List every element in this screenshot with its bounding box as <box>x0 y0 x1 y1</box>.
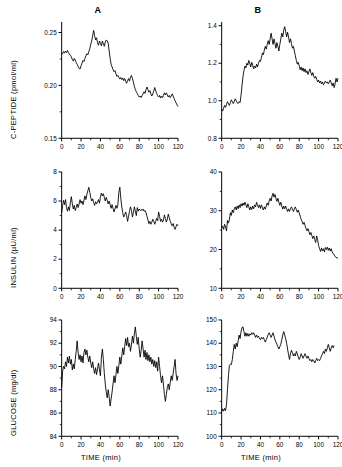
plot-panel-b-glucose: 100110120130140150020406080100120 <box>194 316 342 456</box>
svg-text:40: 40 <box>97 143 105 150</box>
svg-text:140: 140 <box>206 339 217 346</box>
svg-text:130: 130 <box>206 363 217 370</box>
svg-text:110: 110 <box>207 409 218 416</box>
svg-text:40: 40 <box>257 143 265 150</box>
svg-text:0: 0 <box>220 441 224 448</box>
svg-text:88: 88 <box>50 386 58 393</box>
svg-text:40: 40 <box>97 441 105 448</box>
svg-text:40: 40 <box>97 293 105 300</box>
svg-text:6: 6 <box>53 197 57 204</box>
svg-text:40: 40 <box>257 293 265 300</box>
svg-text:0: 0 <box>60 441 64 448</box>
svg-text:40: 40 <box>210 168 218 175</box>
svg-text:4: 4 <box>53 226 57 233</box>
svg-text:60: 60 <box>116 143 124 150</box>
panel-label-a: A <box>78 5 118 15</box>
svg-text:100: 100 <box>206 433 217 440</box>
svg-text:80: 80 <box>136 441 144 448</box>
svg-text:0: 0 <box>220 293 224 300</box>
svg-text:80: 80 <box>296 293 304 300</box>
svg-text:20: 20 <box>210 246 218 253</box>
svg-text:100: 100 <box>313 441 324 448</box>
plot-panel-b-insulin: 10203040020406080100120 <box>194 168 342 308</box>
svg-text:60: 60 <box>116 293 124 300</box>
svg-text:1.4: 1.4 <box>208 22 217 29</box>
svg-text:100: 100 <box>153 441 164 448</box>
svg-text:1.2: 1.2 <box>208 59 217 66</box>
plot-panel-a-insulin: 02468020406080100120 <box>34 168 182 308</box>
svg-text:100: 100 <box>153 143 164 150</box>
plot-panel-b-c-peptide: 0.81.01.21.4020406080100120 <box>194 18 342 158</box>
svg-text:20: 20 <box>77 143 85 150</box>
svg-text:0: 0 <box>60 143 64 150</box>
svg-text:0: 0 <box>60 293 64 300</box>
svg-text:94: 94 <box>50 316 58 323</box>
svg-text:30: 30 <box>210 207 218 214</box>
svg-text:90: 90 <box>50 363 58 370</box>
svg-text:80: 80 <box>296 441 304 448</box>
svg-text:120: 120 <box>333 293 342 300</box>
svg-text:80: 80 <box>296 143 304 150</box>
svg-text:80: 80 <box>136 293 144 300</box>
svg-text:100: 100 <box>313 143 324 150</box>
svg-text:92: 92 <box>50 339 58 346</box>
svg-text:60: 60 <box>276 293 284 300</box>
svg-text:10: 10 <box>210 285 218 292</box>
svg-text:120: 120 <box>333 441 342 448</box>
svg-text:150: 150 <box>206 316 217 323</box>
svg-text:8: 8 <box>53 168 57 175</box>
svg-text:60: 60 <box>276 441 284 448</box>
svg-text:120: 120 <box>333 143 342 150</box>
svg-text:20: 20 <box>237 143 245 150</box>
svg-text:20: 20 <box>237 441 245 448</box>
svg-text:20: 20 <box>237 293 245 300</box>
svg-text:20: 20 <box>77 293 85 300</box>
svg-text:0.25: 0.25 <box>44 29 57 36</box>
y-axis-title-insulin: INSULIN (µU/ml) <box>9 227 18 288</box>
svg-text:120: 120 <box>206 386 217 393</box>
y-axis-title-glucose: GLUCOSE (mg/dl) <box>9 369 18 436</box>
svg-text:0: 0 <box>220 143 224 150</box>
svg-text:120: 120 <box>173 441 184 448</box>
svg-text:100: 100 <box>313 293 324 300</box>
svg-text:120: 120 <box>173 143 184 150</box>
svg-text:0: 0 <box>53 285 57 292</box>
svg-text:86: 86 <box>50 409 58 416</box>
svg-text:80: 80 <box>136 143 144 150</box>
svg-text:40: 40 <box>257 441 265 448</box>
plot-panel-a-glucose: 848688909294020406080100120 <box>34 316 182 456</box>
svg-text:100: 100 <box>153 293 164 300</box>
svg-text:1.0: 1.0 <box>208 97 217 104</box>
svg-text:0.8: 0.8 <box>208 135 217 142</box>
y-axis-title-c-peptide: C-PEPTIDE (pmol/ml) <box>9 60 18 139</box>
svg-text:0.15: 0.15 <box>44 135 57 142</box>
svg-text:20: 20 <box>77 441 85 448</box>
svg-text:120: 120 <box>173 293 184 300</box>
svg-text:2: 2 <box>53 255 57 262</box>
svg-text:60: 60 <box>116 441 124 448</box>
plot-panel-a-c-peptide: 0.150.200.25020406080100120 <box>34 18 182 158</box>
svg-text:84: 84 <box>50 433 58 440</box>
svg-text:0.20: 0.20 <box>44 82 57 89</box>
panel-label-b: B <box>238 5 278 15</box>
svg-text:60: 60 <box>276 143 284 150</box>
